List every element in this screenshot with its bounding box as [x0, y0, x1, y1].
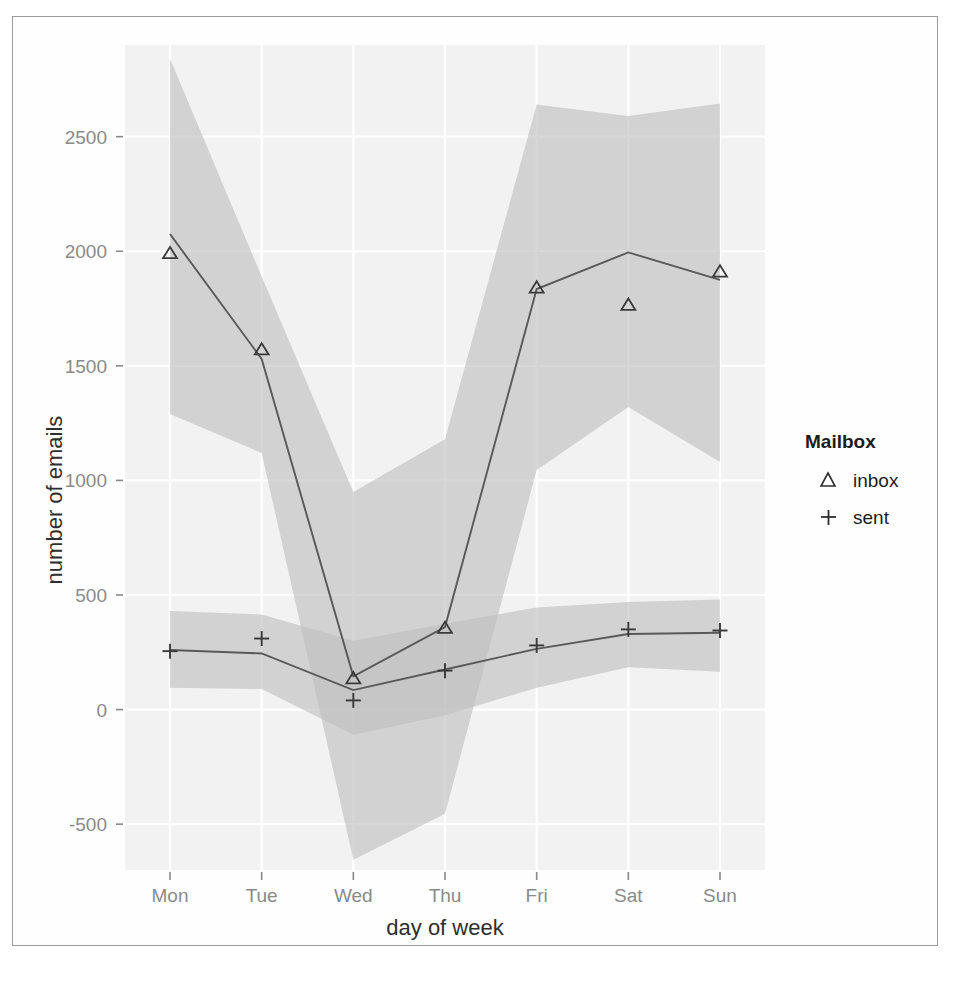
y-tick-label: -500 — [69, 814, 107, 835]
legend-title: Mailbox — [805, 431, 876, 452]
legend: Mailbox inbox sent — [805, 431, 899, 528]
y-tick-label: 2000 — [65, 241, 107, 262]
y-axis-title: number of emails — [42, 416, 67, 585]
legend-item-inbox[interactable]: inbox — [853, 470, 899, 491]
chart-figure: 25002000150010005000-500 MonTueWedThuFri… — [0, 0, 953, 984]
y-tick-label: 1500 — [65, 356, 107, 377]
x-tick-label-Wed: Wed — [334, 885, 373, 906]
y-tick-label: 500 — [75, 585, 107, 606]
y-tick-label: 2500 — [65, 127, 107, 148]
x-tick-label-Sat: Sat — [614, 885, 643, 906]
y-tick-label: 0 — [96, 700, 107, 721]
triangle-icon — [821, 473, 835, 486]
plus-icon — [821, 510, 836, 525]
x-tick-label-Tue: Tue — [246, 885, 278, 906]
x-axis-tick-marks — [170, 872, 720, 880]
y-tick-label: 1000 — [65, 470, 107, 491]
x-tick-label-Sun: Sun — [703, 885, 737, 906]
x-tick-label-Fri: Fri — [526, 885, 548, 906]
y-axis-tick-marks — [116, 137, 123, 825]
x-tick-label-Thu: Thu — [429, 885, 462, 906]
x-axis-title: day of week — [386, 915, 504, 940]
x-axis-tick-labels: MonTueWedThuFriSatSun — [152, 885, 737, 906]
email-volume-chart: 25002000150010005000-500 MonTueWedThuFri… — [0, 0, 953, 984]
y-axis-tick-labels: 25002000150010005000-500 — [65, 127, 107, 836]
x-tick-label-Mon: Mon — [152, 885, 189, 906]
legend-item-sent[interactable]: sent — [853, 507, 890, 528]
